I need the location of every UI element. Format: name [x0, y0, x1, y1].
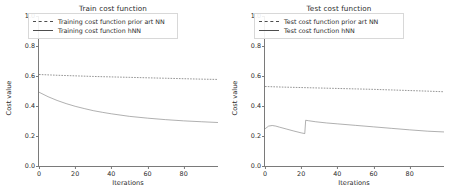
- legend-label: Test cost function prior art NN: [284, 17, 378, 26]
- x-tick: 20: [297, 170, 305, 178]
- legend-label: Test cost function hNN: [284, 26, 355, 35]
- x-tick: 20: [71, 170, 79, 178]
- x-tick: 80: [180, 170, 188, 178]
- y-axis-label: Cost value: [5, 81, 13, 116]
- chart-panel-train: Train cost function Cost value 0.0 0.2 0…: [0, 0, 226, 196]
- legend-label: Training cost function prior art NN: [58, 17, 165, 26]
- chart-panel-test: Test cost function Cost value 0.0 0.2 0.…: [226, 0, 452, 196]
- x-tick: 0: [37, 170, 41, 178]
- y-tick: 0.6: [25, 72, 35, 80]
- legend: Test cost function prior art NN Test cos…: [254, 13, 404, 39]
- series-line-hnn: [39, 92, 218, 122]
- x-tick: 40: [333, 170, 341, 178]
- y-tick: 0.2: [251, 132, 261, 140]
- y-tick: 0.0: [25, 162, 35, 170]
- x-axis-label: Iterations: [264, 179, 444, 187]
- legend-item: Test cost function prior art NN: [259, 17, 399, 26]
- y-tick: 0.0: [251, 162, 261, 170]
- x-tick: 0: [263, 170, 267, 178]
- x-tick: 60: [369, 170, 377, 178]
- series-line-prior-art: [39, 75, 218, 80]
- legend-item: Test cost function hNN: [259, 26, 399, 35]
- y-tick: 0.4: [25, 102, 35, 110]
- legend-item: Training cost function prior art NN: [33, 17, 173, 26]
- legend: Training cost function prior art NN Trai…: [28, 13, 178, 39]
- y-tick: 0.8: [251, 42, 261, 50]
- x-tick: 80: [406, 170, 414, 178]
- legend-item: Training cost function hNN: [33, 26, 173, 35]
- x-tick: 60: [143, 170, 151, 178]
- figure: Train cost function Cost value 0.0 0.2 0…: [0, 0, 452, 196]
- y-tick: 0.8: [25, 42, 35, 50]
- series-line-prior-art: [265, 87, 444, 92]
- y-tick: 0.2: [25, 132, 35, 140]
- y-tick: 0.4: [251, 102, 261, 110]
- x-axis-label: Iterations: [38, 179, 218, 187]
- y-axis-label: Cost value: [231, 81, 239, 116]
- y-tick: 0.6: [251, 72, 261, 80]
- x-tick: 40: [107, 170, 115, 178]
- legend-label: Training cost function hNN: [58, 26, 141, 35]
- series-line-hnn: [265, 120, 444, 133]
